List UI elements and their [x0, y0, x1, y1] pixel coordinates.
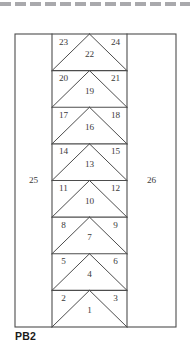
patent-figure-svg: 2322242019211716181413151110128795462132… [0, 0, 190, 360]
chevron-right-leg [90, 34, 128, 71]
triangle-band: 201921 [52, 71, 127, 108]
chevron-left-leg [52, 217, 90, 254]
triangle-band: 213 [52, 290, 127, 327]
band-right-label: 12 [111, 183, 121, 193]
chevron-left-leg [52, 290, 90, 327]
band-center-label: 22 [85, 49, 95, 59]
triangle-band: 879 [52, 217, 127, 254]
chevron-left-leg [52, 181, 90, 218]
band-center-label: 19 [85, 86, 95, 96]
band-right-label: 21 [111, 73, 121, 83]
band-left-label: 17 [59, 110, 69, 120]
chevron-right-leg [90, 181, 128, 218]
band-center-label: 13 [85, 159, 95, 169]
chevron-left-leg [52, 34, 90, 71]
chevron-left-leg [52, 254, 90, 291]
triangle-band: 111012 [52, 181, 127, 218]
band-left-label: 2 [61, 293, 66, 303]
band-center-label: 16 [85, 122, 95, 132]
band-center-label: 7 [87, 232, 92, 242]
band-left-label: 8 [61, 220, 66, 230]
triangle-band: 232224 [52, 34, 127, 71]
band-center-label: 1 [87, 305, 92, 315]
left-region-label: 25 [29, 175, 39, 185]
figure-root: 2322242019211716181413151110128795462132… [0, 0, 190, 360]
triangle-band: 546 [52, 254, 127, 291]
band-right-label: 24 [111, 37, 121, 47]
chevron-right-leg [90, 254, 128, 291]
band-right-label: 18 [111, 110, 121, 120]
chevron-right-leg [90, 217, 128, 254]
band-left-label: 20 [59, 73, 69, 83]
band-right-label: 3 [113, 293, 118, 303]
chevron-right-leg [90, 144, 128, 181]
band-left-label: 5 [61, 256, 66, 266]
band-right-label: 6 [113, 256, 118, 266]
band-left-label: 11 [59, 183, 68, 193]
band-right-label: 9 [113, 220, 118, 230]
band-left-label: 14 [59, 146, 69, 156]
chevron-right-leg [90, 71, 128, 108]
chevron-right-leg [90, 290, 128, 327]
band-center-label: 10 [85, 196, 95, 206]
band-center-label: 4 [87, 269, 92, 279]
triangle-band: 171618 [52, 107, 127, 144]
chevron-left-leg [52, 144, 90, 181]
figure-caption: PB2 [15, 330, 36, 342]
band-left-label: 23 [59, 37, 69, 47]
chevron-left-leg [52, 71, 90, 108]
band-right-label: 15 [111, 146, 121, 156]
chevron-right-leg [90, 107, 128, 144]
right-region-label: 26 [147, 175, 157, 185]
chevron-left-leg [52, 107, 90, 144]
triangle-band: 141315 [52, 144, 127, 181]
